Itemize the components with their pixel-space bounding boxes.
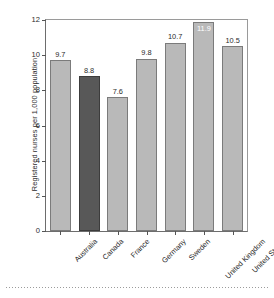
x-tick-mark	[89, 231, 90, 235]
bar[interactable]	[222, 46, 243, 231]
x-category-label: France	[129, 237, 152, 260]
x-tick-mark	[118, 231, 119, 235]
x-category-label: Canada	[101, 237, 126, 262]
bar-value-label: 10.7	[168, 32, 182, 41]
bar[interactable]	[165, 43, 186, 231]
x-tick-mark	[175, 231, 176, 235]
bar[interactable]	[50, 60, 71, 231]
bar-item[interactable]: 11.9	[193, 20, 214, 231]
bar-value-label: 11.9	[197, 24, 211, 33]
bar-value-label: 8.8	[84, 66, 94, 75]
bar[interactable]	[79, 76, 100, 231]
y-tick-label: 0	[36, 226, 40, 235]
y-tick-label: 10	[32, 50, 40, 59]
plot-area: 024681012 9.78.87.69.810.711.910.5	[45, 19, 248, 232]
y-tick-label: 2	[36, 191, 40, 200]
bar-value-label: 9.7	[55, 50, 65, 59]
footer-dotted-rule	[6, 287, 268, 288]
bar-item[interactable]: 10.5	[222, 20, 243, 231]
bar-item[interactable]: 9.8	[136, 20, 157, 231]
bar-item[interactable]: 9.7	[50, 20, 71, 231]
bar[interactable]	[136, 59, 157, 231]
bar-item[interactable]: 10.7	[165, 20, 186, 231]
x-tick-mark	[60, 231, 61, 235]
x-category-label: Australia	[73, 237, 100, 264]
y-tick-label: 8	[36, 85, 40, 94]
bar[interactable]	[193, 22, 214, 231]
bar-value-label: 7.6	[113, 87, 123, 96]
bar-value-label: 9.8	[141, 48, 151, 57]
x-category-label: Germany	[159, 237, 187, 265]
x-tick-mark	[147, 231, 148, 235]
y-tick-label: 4	[36, 156, 40, 165]
bar-item[interactable]: 7.6	[107, 20, 128, 231]
x-tick-mark	[233, 231, 234, 235]
bar-series: 9.78.87.69.810.711.910.5	[46, 20, 247, 231]
x-category-label: Sweden	[187, 237, 212, 262]
y-tick-label: 6	[36, 121, 40, 130]
bar-item[interactable]: 8.8	[79, 20, 100, 231]
chart-figure: Registered nurses per 1,000 population 0…	[0, 0, 274, 298]
x-tick-mark	[204, 231, 205, 235]
y-tick-mark	[42, 231, 46, 232]
bar-value-label: 10.5	[225, 36, 239, 45]
y-tick-label: 12	[32, 15, 40, 24]
bar[interactable]	[107, 97, 128, 231]
